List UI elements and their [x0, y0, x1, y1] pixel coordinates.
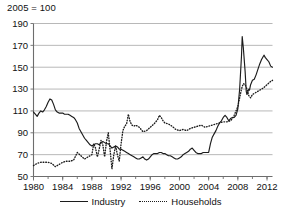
y-axis-tick-label: 170	[12, 40, 28, 51]
legend-swatch-households-dotted-icon	[139, 201, 167, 202]
legend-entry-households: Households	[139, 196, 221, 207]
chart-container: 2005 = 100 507090110130150170190 1980198…	[0, 0, 281, 219]
x-axis-tick-label: 2008	[227, 181, 248, 192]
legend-label-households: Households	[171, 196, 221, 207]
y-axis-tick-label: 150	[12, 62, 28, 73]
y-axis-tick-label: 190	[12, 18, 28, 29]
x-axis-tick-label: 1992	[111, 181, 132, 192]
legend-label-industry: Industry	[92, 196, 126, 207]
y-axis-tick-label: 70	[17, 149, 28, 160]
x-axis-tick-label: 1996	[140, 181, 161, 192]
x-axis-tick-label: 2000	[169, 181, 190, 192]
y-axis-tick-label: 110	[13, 105, 28, 116]
x-axis-tick-label: 2012	[256, 181, 277, 192]
y-axis-tick-label: 130	[12, 83, 28, 94]
y-axis-ticks-group: 507090110130150170190	[12, 18, 33, 182]
x-axis-tick-label: 1984	[52, 181, 73, 192]
chart-plot-area: 507090110130150170190 198019841988199219…	[0, 0, 281, 195]
legend-swatch-industry-line-icon	[60, 201, 88, 202]
x-axis-tick-label: 2004	[198, 181, 219, 192]
x-axis-tick-label: 1980	[23, 181, 44, 192]
gridlines-group	[34, 24, 273, 155]
x-axis-ticks-group: 198019841988199219962000200420082012	[23, 177, 278, 193]
chart-legend: Industry Households	[0, 196, 281, 207]
x-axis-tick-label: 1988	[81, 181, 102, 192]
series-line-industry	[34, 37, 273, 161]
legend-entry-industry: Industry	[60, 196, 126, 207]
y-axis-tick-label: 90	[17, 127, 28, 138]
series-line-households	[34, 80, 273, 169]
